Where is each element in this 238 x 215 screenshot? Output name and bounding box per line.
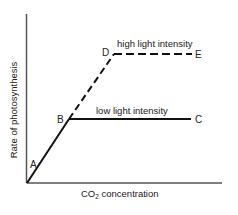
point-b-label: B <box>57 114 64 125</box>
photosynthesis-diagram: A B C D E high light intensity low light… <box>0 0 238 215</box>
point-d-label: D <box>102 47 109 58</box>
point-e-label: E <box>195 49 202 60</box>
x-axis-label: CO2 concentration <box>81 188 159 200</box>
point-a-label: A <box>30 159 37 170</box>
low-light-label: low light intensity <box>96 105 168 116</box>
y-axis-label: Rate of photosynthesis <box>8 61 19 158</box>
line-origin-to-b <box>27 119 69 183</box>
point-c-label: C <box>195 114 202 125</box>
high-light-label: high light intensity <box>117 38 193 49</box>
